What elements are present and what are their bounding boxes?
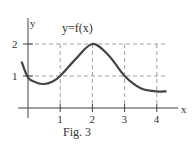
y-tick-label: 2 [12,38,18,50]
x-axis-label: x [181,103,187,115]
grid-lines [28,44,166,108]
y-axis-label: y [30,17,36,29]
x-tick-label: 4 [154,113,160,125]
function-curve [22,44,167,92]
chart-title: y=f(x) [62,21,93,35]
figure-caption: Fig. 3 [63,125,91,139]
x-tick-label: 3 [122,113,128,125]
function-chart: 123412 y x y=f(x) Fig. 3 [0,0,194,147]
x-tick-label: 1 [57,113,63,125]
x-tick-label: 2 [89,113,95,125]
y-tick-label: 1 [12,70,18,82]
